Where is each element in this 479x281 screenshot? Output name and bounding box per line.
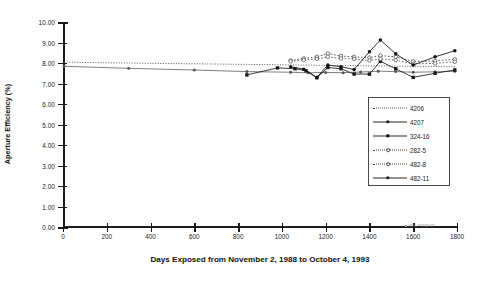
x-tick-label: 600 bbox=[189, 233, 200, 240]
y-tick-label: 6.00 bbox=[42, 101, 55, 108]
data-point bbox=[63, 65, 66, 68]
legend-label: 482-11 bbox=[410, 175, 429, 182]
y-tick-label: 10.00 bbox=[39, 19, 56, 26]
data-point bbox=[368, 72, 371, 75]
legend-item-324-16[interactable]: 324-16 bbox=[373, 129, 446, 143]
legend-marker-icon bbox=[386, 134, 389, 137]
legend-swatch bbox=[373, 173, 407, 183]
data-point bbox=[394, 58, 398, 62]
data-point bbox=[394, 67, 397, 70]
y-tick-label: 4.00 bbox=[42, 142, 55, 149]
data-point bbox=[412, 76, 415, 79]
data-point bbox=[127, 67, 130, 70]
legend-item-282-5[interactable]: 282-5 bbox=[373, 143, 446, 157]
legend-label: 482-8 bbox=[410, 161, 426, 168]
y-tick-label: 9.00 bbox=[42, 39, 55, 46]
x-tick-label: 1800 bbox=[450, 233, 464, 240]
data-point bbox=[302, 58, 306, 62]
legend-swatch bbox=[373, 159, 407, 169]
legend-item-482-11[interactable]: 482-11 bbox=[373, 171, 446, 185]
legend-marker-icon bbox=[386, 148, 390, 152]
legend-line-icon bbox=[373, 150, 407, 151]
series-line bbox=[64, 62, 455, 67]
data-point bbox=[276, 66, 279, 69]
legend-label: 324-16 bbox=[410, 133, 430, 140]
data-point bbox=[453, 68, 456, 71]
series-282-5 bbox=[289, 52, 457, 63]
data-point bbox=[326, 55, 330, 59]
x-tick-label: 1400 bbox=[362, 233, 376, 240]
legend-label: 4206 bbox=[410, 105, 424, 112]
data-point bbox=[342, 71, 345, 74]
legend-line-icon bbox=[373, 108, 407, 109]
x-tick bbox=[457, 223, 458, 232]
legend: 42064207324-16282-5482-8482-11 bbox=[368, 97, 450, 186]
series-4206 bbox=[64, 62, 455, 67]
data-point bbox=[359, 71, 362, 74]
data-point bbox=[352, 57, 356, 61]
x-tick-label: 800 bbox=[233, 233, 244, 240]
legend-swatch bbox=[373, 103, 407, 113]
data-point bbox=[326, 63, 330, 67]
data-point bbox=[245, 70, 248, 73]
data-point bbox=[245, 73, 248, 76]
legend-label: 4207 bbox=[410, 119, 424, 126]
data-point bbox=[379, 57, 383, 61]
data-point bbox=[339, 57, 343, 61]
series-324-16 bbox=[245, 60, 456, 80]
data-point bbox=[315, 76, 319, 80]
legend-marker-icon bbox=[386, 120, 389, 123]
data-point bbox=[289, 65, 293, 69]
data-point bbox=[411, 63, 415, 67]
legend-item-482-8[interactable]: 482-8 bbox=[373, 157, 446, 171]
data-point bbox=[289, 60, 293, 64]
y-tick-label: 2.00 bbox=[42, 183, 55, 190]
data-point bbox=[339, 65, 343, 69]
x-tick-label: 1600 bbox=[406, 233, 420, 240]
data-point bbox=[394, 52, 398, 56]
legend-swatch bbox=[373, 117, 407, 127]
x-tick-label: 0 bbox=[61, 233, 65, 240]
legend-item-4207[interactable]: 4207 bbox=[373, 115, 446, 129]
data-point bbox=[433, 72, 436, 75]
plot-stamp-annotation: NREL PVMAT/NR bbox=[405, 224, 434, 228]
series-482-8 bbox=[289, 55, 457, 65]
data-point bbox=[193, 68, 196, 71]
data-point bbox=[368, 59, 372, 63]
y-axis-title: Aperture Efficiency (%) bbox=[3, 84, 12, 164]
y-tick-label: 0.00 bbox=[42, 224, 55, 231]
legend-marker-icon bbox=[386, 176, 389, 179]
legend-swatch bbox=[373, 131, 407, 141]
legend-line-icon bbox=[373, 136, 407, 137]
chart-figure: Aperture Efficiency (%) Days Exposed fro… bbox=[0, 0, 479, 281]
legend-line-icon bbox=[373, 164, 407, 165]
data-point bbox=[352, 68, 356, 72]
data-point bbox=[377, 70, 380, 73]
data-point bbox=[289, 71, 292, 74]
y-tick-label: 3.00 bbox=[42, 162, 55, 169]
stamp-text: NREL PVMAT/NR bbox=[409, 224, 435, 228]
x-tick-label: 400 bbox=[145, 233, 156, 240]
data-point bbox=[453, 49, 457, 53]
data-point bbox=[433, 55, 437, 59]
legend-item-4206[interactable]: 4206 bbox=[373, 101, 446, 115]
legend-line-icon bbox=[373, 122, 407, 123]
data-point bbox=[368, 50, 372, 54]
x-tick-label: 1000 bbox=[275, 233, 289, 240]
legend-label: 282-5 bbox=[410, 147, 426, 154]
legend-marker-icon bbox=[386, 162, 390, 166]
y-tick-label: 8.00 bbox=[42, 60, 55, 67]
data-point bbox=[324, 71, 327, 74]
x-axis-title: Days Exposed from November 2, 1988 to Oc… bbox=[63, 255, 457, 264]
data-point bbox=[379, 38, 383, 42]
y-tick-label: 1.00 bbox=[42, 203, 55, 210]
data-point bbox=[352, 72, 355, 75]
stamp-marker-icon bbox=[405, 225, 407, 227]
data-point bbox=[453, 60, 457, 64]
y-tick-label: 5.00 bbox=[42, 121, 55, 128]
y-tick-label: 7.00 bbox=[42, 80, 55, 87]
data-point bbox=[315, 57, 319, 61]
data-point bbox=[433, 62, 437, 66]
legend-line-icon bbox=[373, 178, 407, 179]
data-point bbox=[394, 70, 397, 73]
